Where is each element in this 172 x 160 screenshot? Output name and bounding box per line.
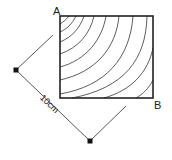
dimension-line [16, 35, 126, 141]
diagram-canvas: A B 10cm [0, 0, 172, 160]
dimension-endpoint-bottom [88, 139, 93, 144]
label-a: A [53, 5, 61, 17]
contour-lines [60, 16, 153, 98]
dimension-endpoint-left [14, 68, 19, 73]
dimension-label: 10cm [38, 93, 61, 115]
square-outline [60, 16, 153, 98]
label-b: B [154, 99, 161, 111]
